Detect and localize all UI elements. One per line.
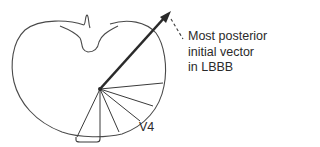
vector-arrow-shaft bbox=[100, 17, 165, 89]
annotation-label: Most posterior initial vector in LBBB bbox=[188, 29, 267, 76]
lead-v4-label: V4 bbox=[139, 120, 154, 134]
vector-origin bbox=[98, 87, 102, 91]
dashed-leader-line bbox=[171, 19, 183, 39]
annotation-line-3: in LBBB bbox=[188, 60, 267, 76]
annotation-line-1: Most posterior bbox=[188, 29, 267, 45]
electrode-pad bbox=[76, 137, 100, 142]
vertebra-outline bbox=[60, 15, 118, 52]
annotation-line-2: initial vector bbox=[188, 45, 267, 61]
